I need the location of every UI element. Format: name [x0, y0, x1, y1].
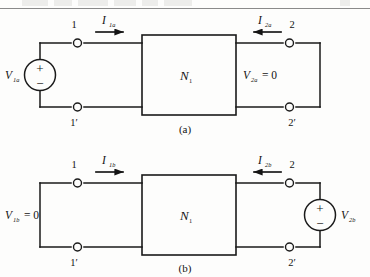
terminal-a-1-prime [74, 103, 82, 111]
network-block-a [142, 35, 236, 115]
current-label-b-I1b-symbol: I [101, 154, 107, 166]
current-label-a-I1a-subscript: 1a [109, 21, 115, 28]
current-label-b-I1b: I 1b [101, 154, 115, 168]
current-label-a-I2a-symbol: I [257, 14, 263, 26]
port-condition-a-relation: = 0 [262, 69, 277, 81]
source-label-b: V 2b [341, 209, 355, 223]
network-block-label-a-subscript: 1 [189, 77, 192, 84]
plus-sign-b: + [316, 201, 323, 216]
source-label-a-subscript: 1a [13, 76, 19, 83]
current-label-a-I1a: I 1a [101, 14, 115, 28]
port-condition-b-subscript: 1b [13, 216, 19, 223]
circuit-diagram-canvas: 1 1′ 2 2′ I 1a I 2a V 1a + − [0, 0, 370, 277]
terminal-b-1 [74, 179, 82, 187]
current-label-b-I1b-subscript: 1b [109, 161, 115, 168]
port-condition-a: V 2a = 0 [243, 69, 277, 83]
current-label-b-I2b: I 2b [257, 154, 271, 168]
plus-sign-a: + [36, 61, 43, 76]
terminal-a-2 [286, 39, 294, 47]
minus-sign-a: − [36, 76, 43, 91]
terminal-label-a-2-prime: 2′ [288, 117, 296, 128]
terminal-b-2-prime [286, 243, 294, 251]
terminal-label-a-2: 2 [289, 19, 294, 30]
port-condition-a-subscript: 2a [251, 76, 257, 83]
port-condition-b: V 1b = 0 [5, 209, 39, 223]
terminal-a-1 [74, 39, 82, 47]
terminal-label-b-1: 1 [71, 159, 76, 170]
source-label-b-subscript: 2b [349, 216, 355, 223]
network-block-label-b-subscript: 1 [189, 217, 192, 224]
current-label-a-I2a: I 2a [257, 14, 271, 28]
terminal-label-a-1-prime: 1′ [70, 117, 78, 128]
terminal-label-b-2-prime: 2′ [288, 257, 296, 268]
terminal-label-a-1: 1 [71, 19, 76, 30]
source-label-a: V 1a [5, 69, 19, 83]
terminal-label-b-1-prime: 1′ [70, 257, 78, 268]
caption-a: (a) [179, 123, 192, 136]
caption-b: (b) [179, 262, 192, 275]
current-label-a-I2a-subscript: 2a [265, 21, 271, 28]
current-label-b-I2b-subscript: 2b [265, 161, 271, 168]
current-label-b-I2b-symbol: I [257, 154, 263, 166]
terminal-b-2 [286, 179, 294, 187]
minus-sign-b: − [316, 216, 323, 231]
figure-container: 1 1′ 2 2′ I 1a I 2a V 1a + − [0, 0, 370, 277]
port-condition-b-relation: = 0 [24, 209, 39, 221]
terminal-a-2-prime [286, 103, 294, 111]
current-label-a-I1a-symbol: I [101, 14, 107, 26]
terminal-b-1-prime [74, 243, 82, 251]
terminal-label-b-2: 2 [289, 159, 294, 170]
network-block-b [142, 175, 236, 255]
